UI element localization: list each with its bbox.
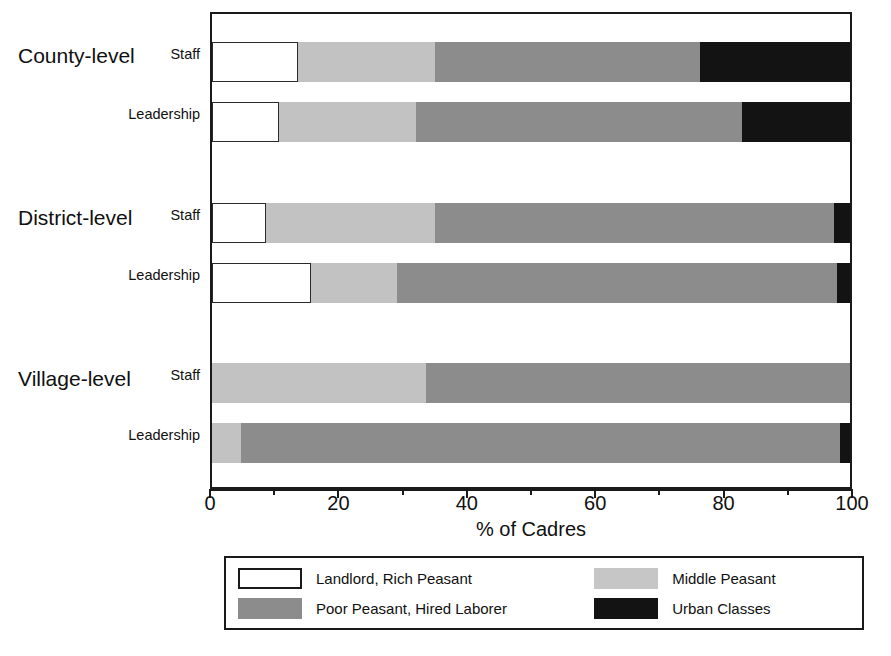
- segment-landlord-rich-peasant: [212, 203, 266, 243]
- legend-label: Landlord, Rich Peasant: [316, 570, 472, 587]
- bar-district-staff: [212, 203, 850, 243]
- segment-urban-classes: [840, 423, 850, 463]
- segment-urban-classes: [837, 263, 850, 303]
- row-label-county-leadership: Leadership: [20, 107, 200, 122]
- segment-urban-classes: [700, 42, 850, 82]
- bar-county-staff: [212, 42, 850, 82]
- segment-middle-peasant: [212, 363, 426, 403]
- bar-track: [212, 263, 850, 303]
- legend-swatch-icon: [594, 568, 658, 589]
- segment-middle-peasant: [212, 423, 241, 463]
- x-tick-minor: [402, 489, 404, 495]
- row-label-county-staff: Staff: [20, 47, 200, 62]
- x-tick-label: 40: [432, 492, 502, 514]
- bar-track: [212, 423, 850, 463]
- x-tick-label: 100: [817, 492, 887, 514]
- bar-county-leadership: [212, 102, 850, 142]
- legend-swatch-icon: [238, 598, 302, 619]
- x-tick-label: 80: [689, 492, 759, 514]
- x-tick-label: 20: [303, 492, 373, 514]
- segment-poor-peasant-hired-laborer: [241, 423, 841, 463]
- segment-middle-peasant: [311, 263, 397, 303]
- x-tick-minor: [658, 489, 660, 495]
- segment-landlord-rich-peasant: [212, 42, 298, 82]
- x-tick-label: 60: [560, 492, 630, 514]
- row-label-district-staff: Staff: [20, 208, 200, 223]
- bar-track: [212, 203, 850, 243]
- legend-item-poor-peasant-hired-laborer: Poor Peasant, Hired Laborer: [226, 598, 582, 619]
- bar-track: [212, 363, 850, 403]
- legend-item-middle-peasant: Middle Peasant: [582, 568, 862, 589]
- bar-track: [212, 102, 850, 142]
- bar-track: [212, 42, 850, 82]
- segment-landlord-rich-peasant: [212, 263, 311, 303]
- x-tick-minor: [787, 489, 789, 495]
- bar-village-staff: [212, 363, 850, 403]
- x-tick-minor: [530, 489, 532, 495]
- row-label-district-leadership: Leadership: [20, 268, 200, 283]
- segment-landlord-rich-peasant: [212, 102, 279, 142]
- segment-urban-classes: [834, 203, 850, 243]
- legend-item-landlord-rich-peasant: Landlord, Rich Peasant: [226, 568, 582, 589]
- segment-poor-peasant-hired-laborer: [426, 363, 850, 403]
- x-axis-title: % of Cadres: [210, 518, 852, 540]
- stacked-bar-chart-figure: County-level District-level Village-leve…: [0, 0, 891, 656]
- legend-label: Middle Peasant: [672, 570, 775, 587]
- segment-middle-peasant: [266, 203, 435, 243]
- legend-label: Urban Classes: [672, 600, 770, 617]
- legend-label: Poor Peasant, Hired Laborer: [316, 600, 507, 617]
- chart-legend: Landlord, Rich Peasant Middle Peasant Po…: [224, 556, 864, 630]
- legend-item-urban-classes: Urban Classes: [582, 598, 862, 619]
- segment-poor-peasant-hired-laborer: [397, 263, 837, 303]
- plot-area: [210, 12, 852, 489]
- segment-poor-peasant-hired-laborer: [435, 203, 834, 243]
- segment-middle-peasant: [298, 42, 435, 82]
- segment-poor-peasant-hired-laborer: [435, 42, 700, 82]
- segment-poor-peasant-hired-laborer: [416, 102, 741, 142]
- segment-urban-classes: [742, 102, 850, 142]
- legend-swatch-icon: [238, 568, 302, 589]
- row-label-village-staff: Staff: [20, 368, 200, 383]
- bar-village-leadership: [212, 423, 850, 463]
- bar-district-leadership: [212, 263, 850, 303]
- segment-middle-peasant: [279, 102, 416, 142]
- x-tick-minor: [273, 489, 275, 495]
- legend-swatch-icon: [594, 598, 658, 619]
- row-label-village-leadership: Leadership: [20, 428, 200, 443]
- x-tick-label: 0: [175, 492, 245, 514]
